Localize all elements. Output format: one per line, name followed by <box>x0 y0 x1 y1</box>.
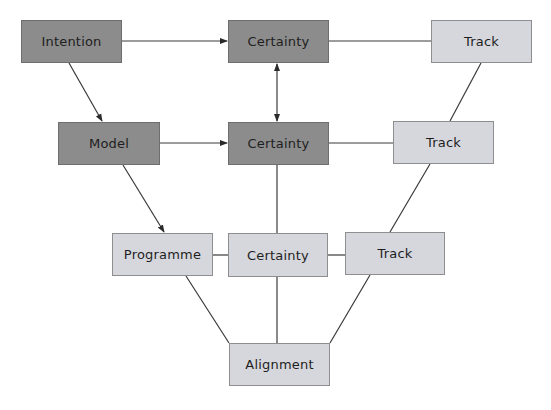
node-certainty-bottom: Certainty <box>228 233 328 277</box>
diagram-canvas: Intention Certainty Track Model Certaint… <box>0 0 551 410</box>
node-label: Track <box>426 135 461 150</box>
node-label: Intention <box>41 34 101 49</box>
edge-track-mid-track-bottom <box>390 164 430 232</box>
edge-track-top-track-mid <box>450 63 481 121</box>
node-label: Certainty <box>247 248 309 263</box>
node-label: Track <box>464 34 499 49</box>
edge-model-programme <box>123 165 164 232</box>
edge-intention-model <box>69 63 102 121</box>
node-label: Model <box>89 136 129 151</box>
node-label: Alignment <box>245 357 313 372</box>
node-track-mid: Track <box>393 121 494 164</box>
node-label: Certainty <box>248 34 310 49</box>
node-label: Programme <box>124 247 201 262</box>
node-track-bottom: Track <box>345 232 445 275</box>
node-intention: Intention <box>21 20 122 63</box>
node-certainty-mid: Certainty <box>228 122 329 165</box>
edge-programme-alignment <box>186 276 229 343</box>
node-track-top: Track <box>431 20 532 63</box>
edge-track-bottom-alignment <box>330 275 370 343</box>
node-model: Model <box>58 122 160 165</box>
node-label: Certainty <box>248 136 310 151</box>
node-programme: Programme <box>112 233 213 276</box>
node-label: Track <box>377 246 412 261</box>
node-alignment: Alignment <box>229 343 330 386</box>
node-certainty-top: Certainty <box>228 20 329 63</box>
